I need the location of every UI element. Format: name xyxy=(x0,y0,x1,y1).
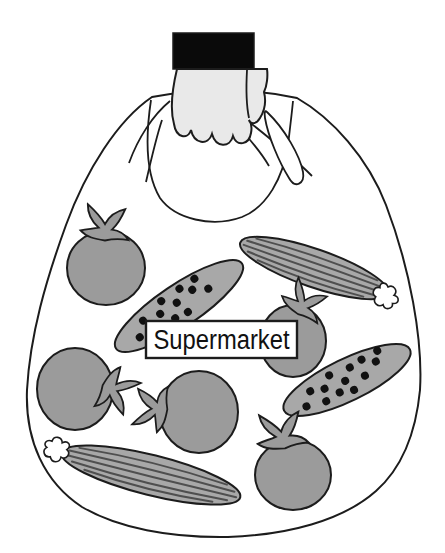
supermarket-label-text: Supermarket xyxy=(154,325,290,355)
supermarket-bag-illustration: Supermarket xyxy=(0,0,445,553)
illustration-stage: Supermarket xyxy=(0,0,445,553)
supermarket-label: Supermarket xyxy=(146,321,297,358)
tomato-body xyxy=(160,371,238,453)
tomato-body xyxy=(67,231,145,305)
tomato-body xyxy=(255,440,331,510)
black-sleeve xyxy=(173,33,254,69)
